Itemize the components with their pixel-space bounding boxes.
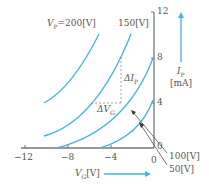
label-vp-200: VP=200[V] (47, 19, 96, 30)
x-tick-label-8: −8 (61, 153, 74, 162)
y-tick-label-12: 12 (157, 7, 168, 16)
x-axis-label: VG[V] (75, 169, 100, 180)
plate-characteristic-chart: VP=200[V] 150[V] 100[V] 50[V] ΔIP ΔVG IP… (0, 0, 209, 186)
vg-arrowhead (145, 171, 151, 177)
arrowhead-50v (139, 122, 144, 128)
curve-200v (44, 34, 99, 103)
label-vp-150: 150[V] (118, 19, 149, 28)
y-tick-label-0: 0 (157, 142, 163, 151)
label-delta-vg: ΔVG (97, 105, 115, 116)
label-delta-ip: ΔIP (124, 74, 138, 85)
y-axis-label: IP (177, 67, 185, 78)
curve-150v (44, 34, 131, 136)
x-tick-label-12: −12 (14, 153, 33, 162)
ip-arrowhead (178, 12, 184, 18)
y-axis-unit: [mA] (170, 79, 192, 88)
label-vp-50: 50[V] (169, 165, 194, 174)
y-tick-label-4: 4 (157, 98, 163, 107)
y-tick-label-8: 8 (157, 53, 163, 62)
x-tick-label-0: 0 (151, 156, 157, 165)
label-vp-100: 100[V] (169, 152, 200, 161)
x-tick-label-4: −4 (104, 153, 117, 162)
